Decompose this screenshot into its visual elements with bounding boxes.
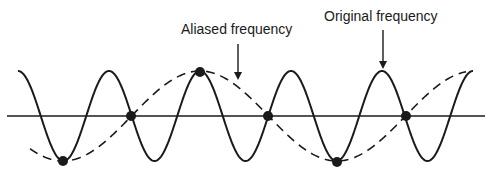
sample-point xyxy=(195,67,205,77)
annotation-arrows xyxy=(234,30,387,80)
sample-point xyxy=(58,156,68,166)
sample-point xyxy=(401,111,411,121)
aliasing-diagram: Aliased frequency Original frequency xyxy=(0,0,489,174)
original-frequency-label: Original frequency xyxy=(324,9,438,23)
original-arrow-down-icon xyxy=(379,61,387,69)
sample-point xyxy=(332,157,342,167)
sample-point xyxy=(126,111,136,121)
sample-point xyxy=(263,111,273,121)
aliased-frequency-label: Aliased frequency xyxy=(181,22,292,36)
aliased-arrow-down-icon xyxy=(234,72,242,80)
